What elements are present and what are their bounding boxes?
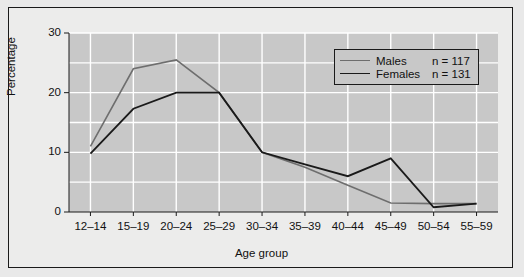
y-axis-label: Percentage: [5, 37, 17, 96]
chart-legend: Malesn = 117Femalesn = 131: [334, 49, 479, 85]
x-tick-label: 40–44: [326, 221, 370, 233]
legend-sample-size: n = 131: [432, 68, 471, 80]
x-tick-label: 45–49: [369, 221, 413, 233]
legend-swatch-icon: [340, 60, 370, 61]
x-tick-label: 55–59: [455, 221, 499, 233]
y-tick-label: 20: [33, 87, 61, 99]
x-tick-label: 30–34: [240, 221, 284, 233]
x-tick-label: 50–54: [412, 221, 456, 233]
chart-figure: Percentage 0102030 12–1415–1920–2425–293…: [8, 7, 513, 268]
legend-item: Malesn = 117: [340, 54, 471, 67]
x-tick-label: 15–19: [111, 221, 155, 233]
legend-swatch-icon: [340, 73, 370, 74]
x-tick-label: 25–29: [197, 221, 241, 233]
y-tick-label: 10: [33, 146, 61, 158]
x-axis-label: Age group: [9, 247, 514, 259]
x-tick-label: 20–24: [154, 221, 198, 233]
legend-series-name: Males: [376, 55, 432, 67]
legend-series-name: Females: [376, 68, 432, 80]
legend-item: Femalesn = 131: [340, 67, 471, 80]
x-tick-label: 12–14: [68, 221, 112, 233]
series-line-females: [90, 93, 476, 208]
y-tick-label: 30: [33, 27, 61, 39]
x-tick-label: 35–39: [283, 221, 327, 233]
legend-sample-size: n = 117: [432, 55, 470, 67]
y-tick-label: 0: [33, 206, 61, 218]
